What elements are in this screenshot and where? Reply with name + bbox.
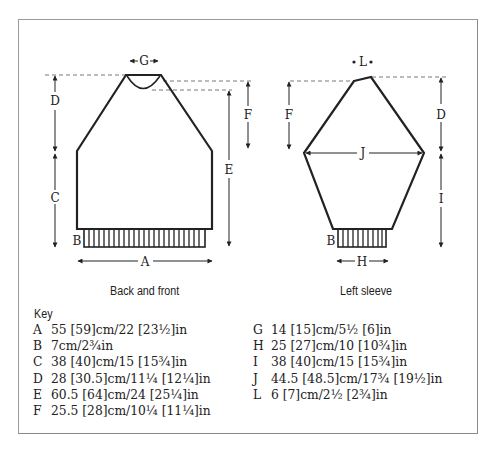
key-row-j: J44.5 [48.5]cm/17¾ [19½]in bbox=[253, 371, 442, 387]
caption-left-sleeve: Left sleeve bbox=[340, 284, 392, 298]
label-j: J bbox=[359, 146, 366, 160]
back-front-schematic bbox=[45, 61, 251, 261]
label-g: G bbox=[139, 54, 149, 68]
label-e: E bbox=[225, 163, 234, 177]
key-row-e: E60.5 [64]cm/24 [25¼]in bbox=[33, 387, 211, 403]
key-title: Key bbox=[34, 307, 53, 321]
key-row-i: I38 [40]cm/15 [15¾]in bbox=[253, 354, 442, 370]
body-outline bbox=[77, 75, 212, 229]
sleeve-schematic bbox=[289, 60, 446, 261]
key-row-c: C38 [40]cm/15 [15¾]in bbox=[33, 354, 211, 370]
key-row-b: B7cm/2¾in bbox=[33, 338, 211, 354]
key-row-a: A55 [59]cm/22 [23½]in bbox=[33, 322, 211, 338]
cuff-ribbing bbox=[338, 229, 386, 247]
label-f: F bbox=[244, 108, 252, 122]
caption-back-and-front: Back and front bbox=[110, 284, 179, 298]
key-row-g: G14 [15]cm/5½ [6]in bbox=[253, 322, 442, 338]
key-row-d: D28 [30.5]cm/11¼ [12¼]in bbox=[33, 371, 211, 387]
label-d: D bbox=[50, 94, 60, 108]
key-row-l: L6 [7]cm/2½ [2¾]in bbox=[253, 387, 442, 403]
key-row-h: H25 [27]cm/10 [10¾]in bbox=[253, 338, 442, 354]
key-row-f: F25.5 [28]cm/10¼ [11¼]in bbox=[33, 403, 211, 419]
label-f-sleeve: F bbox=[285, 108, 293, 122]
label-i: I bbox=[439, 192, 444, 206]
label-a: A bbox=[140, 255, 150, 269]
label-h: H bbox=[357, 255, 367, 269]
label-b-sleeve: B bbox=[327, 234, 336, 248]
label-c: C bbox=[50, 191, 59, 205]
key-left-column: A55 [59]cm/22 [23½]in B7cm/2¾in C38 [40]… bbox=[33, 322, 211, 419]
label-l: L bbox=[359, 55, 367, 69]
hem-ribbing bbox=[84, 229, 205, 247]
neckline-curve bbox=[127, 76, 160, 89]
key-right-column: G14 [15]cm/5½ [6]in H25 [27]cm/10 [10¾]i… bbox=[253, 322, 442, 403]
label-b: B bbox=[73, 234, 82, 248]
label-d-sleeve: D bbox=[436, 108, 446, 122]
